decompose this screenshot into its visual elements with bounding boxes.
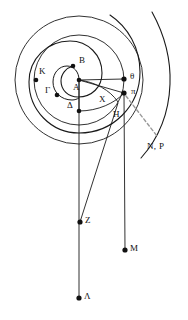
point-dot-delta xyxy=(77,109,82,114)
label-point-gamma: Γ xyxy=(45,86,50,95)
point-dot-B xyxy=(71,64,76,69)
point-dot-Z xyxy=(77,219,82,224)
label-point-K: K xyxy=(39,67,46,76)
label-point-X: X xyxy=(99,95,106,104)
point-dot-theta xyxy=(121,76,126,81)
label-point-np: N, P xyxy=(147,142,164,151)
geometry-canvas xyxy=(0,0,188,320)
point-dot-lambda xyxy=(76,295,81,300)
segment-a-pi xyxy=(79,80,124,93)
point-dots xyxy=(34,64,128,301)
line-pi-m xyxy=(124,93,125,250)
spiral-outer-tail xyxy=(141,12,170,158)
label-point-lambda: Λ xyxy=(84,292,91,301)
segment-a-theta xyxy=(79,79,124,80)
label-point-delta: Δ xyxy=(67,101,73,110)
label-point-M: M xyxy=(130,244,138,253)
point-dot-K xyxy=(34,78,39,83)
point-dot-gamma xyxy=(55,93,60,98)
label-point-Z: Z xyxy=(85,216,91,225)
spiral-diagram-figure: A B K Γ Δ θ π X H N, P Z M Λ xyxy=(0,0,188,320)
label-point-A: A xyxy=(73,83,80,92)
dashed-line-pi-np xyxy=(126,96,157,136)
point-dot-M xyxy=(122,247,127,252)
line-h-z xyxy=(80,103,118,222)
label-point-theta: θ xyxy=(130,72,134,81)
label-point-B: B xyxy=(79,56,85,65)
point-dot-pi xyxy=(121,90,126,95)
label-point-H: H xyxy=(113,110,120,119)
label-point-pi: π xyxy=(131,87,136,96)
